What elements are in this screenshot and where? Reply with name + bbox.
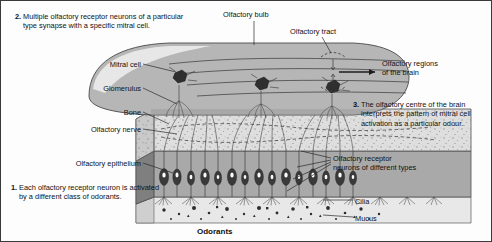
step-2-number: 2. bbox=[15, 12, 21, 21]
label-cilia: Cilia bbox=[355, 197, 369, 206]
label-receptor-neurons: Olfactory receptor neurons of different … bbox=[333, 154, 416, 172]
label-mucus: Mucus bbox=[355, 214, 377, 223]
label-glomerulus: Glomerulus bbox=[37, 84, 141, 93]
step-2-annotation: 2. Multiple olfactory receptor neurons o… bbox=[15, 12, 195, 31]
label-olfactory-epithelium: Olfactory epithelium bbox=[15, 159, 141, 168]
step-3-annotation: 3. The olfactory centre of the brain int… bbox=[353, 100, 489, 128]
label-olfactory-bulb: Olfactory bulb bbox=[223, 10, 269, 19]
label-olfactory-tract: Olfactory tract bbox=[290, 27, 336, 36]
label-mitral-cell: Mitral cell bbox=[37, 60, 141, 69]
step-1-number: 1. bbox=[11, 183, 17, 192]
step-1-text: Each olfactory receptor neuron is activa… bbox=[11, 183, 161, 202]
step-3-text: The olfactory centre of the brain interp… bbox=[353, 100, 489, 128]
olfactory-diagram-figure: Olfactory bulb Olfactory tract Olfactory… bbox=[0, 0, 492, 242]
label-olfactory-regions-of-brain: Olfactory regions of the brain bbox=[382, 59, 438, 77]
step-2-text: Multiple olfactory receptor neurons of a… bbox=[15, 12, 195, 31]
step-3-number: 3. bbox=[353, 100, 359, 109]
label-bone: Bone bbox=[37, 108, 141, 117]
olfactory-epithelium-layer bbox=[136, 151, 471, 204]
step-1-annotation: 1. Each olfactory receptor neuron is act… bbox=[11, 183, 161, 202]
label-olfactory-nerve: Olfactory nerve bbox=[15, 125, 141, 134]
caption-odorants: Odorants bbox=[197, 227, 233, 236]
